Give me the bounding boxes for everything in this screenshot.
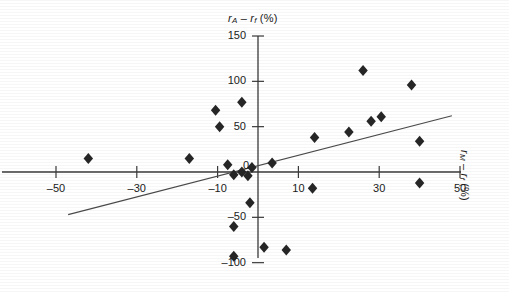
x-tick-label: 10: [284, 182, 312, 194]
regression-line: [68, 116, 452, 215]
scatter-plot: [0, 0, 509, 292]
data-point: [223, 159, 232, 170]
y-axis-title: rA – rf (%): [228, 12, 278, 25]
data-point: [84, 153, 93, 164]
data-point: [237, 97, 246, 108]
x-tick-label: –30: [123, 182, 151, 194]
data-point: [310, 132, 319, 143]
data-point: [407, 79, 416, 90]
data-point: [185, 153, 194, 164]
data-point: [415, 177, 424, 188]
y-tick-label: –100: [214, 256, 246, 268]
data-point: [211, 105, 220, 116]
data-point: [366, 116, 375, 127]
data-point: [376, 111, 385, 122]
data-point: [415, 136, 424, 147]
data-point: [259, 242, 268, 253]
x-tick-label: –50: [42, 182, 70, 194]
data-point: [282, 244, 291, 255]
data-point: [229, 221, 238, 232]
data-point: [358, 65, 367, 76]
y-tick-label: 50: [214, 120, 246, 132]
x-tick-label: 30: [365, 182, 393, 194]
data-point: [344, 127, 353, 138]
y-tick-label: 100: [214, 74, 246, 86]
x-tick-label: –10: [204, 182, 232, 194]
y-tick-label: –50: [214, 210, 246, 222]
y-tick-label: 0: [243, 159, 255, 171]
y-tick-label: 150: [214, 29, 246, 41]
x-tick-label: 50: [446, 182, 474, 194]
data-point: [267, 157, 276, 168]
data-point: [245, 197, 254, 208]
